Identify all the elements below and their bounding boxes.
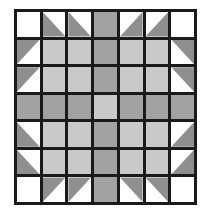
quilt-cell-r1-c5 (120, 12, 143, 37)
quilt-cell-r2-c4 (94, 40, 117, 65)
quilt-cell-r3-c3 (68, 67, 91, 92)
quilt-cell-r2-c6 (146, 40, 169, 65)
quilt-cell-r6-c7 (171, 150, 194, 175)
quilt-cell-r5-c1 (17, 122, 40, 147)
quilt-cell-r7-c3 (68, 177, 91, 202)
quilt-cell-r1-c3 (68, 12, 91, 37)
quilt-cell-r3-c6 (146, 67, 169, 92)
quilt-grid (14, 9, 197, 205)
quilt-cell-r3-c5 (120, 67, 143, 92)
quilt-cell-r6-c3 (68, 150, 91, 175)
quilt-cell-r1-c1 (17, 12, 40, 37)
quilt-cell-r3-c4 (94, 67, 117, 92)
quilt-cell-r2-c7 (171, 40, 194, 65)
quilt-cell-r7-c7 (171, 177, 194, 202)
quilt-cell-r5-c6 (146, 122, 169, 147)
quilt-cell-r4-c7 (171, 95, 194, 120)
quilt-cell-r6-c4 (94, 150, 117, 175)
quilt-cell-r6-c1 (17, 150, 40, 175)
quilt-cell-r5-c5 (120, 122, 143, 147)
quilt-cell-r2-c2 (43, 40, 66, 65)
quilt-cell-r7-c1 (17, 177, 40, 202)
quilt-cell-r5-c3 (68, 122, 91, 147)
quilt-cell-r6-c5 (120, 150, 143, 175)
quilt-cell-r7-c5 (120, 177, 143, 202)
quilt-cell-r5-c7 (171, 122, 194, 147)
quilt-figure (0, 0, 211, 214)
quilt-cell-r2-c5 (120, 40, 143, 65)
quilt-cell-r1-c7 (171, 12, 194, 37)
quilt-cell-r6-c6 (146, 150, 169, 175)
quilt-cell-r1-c2 (43, 12, 66, 37)
quilt-cell-r3-c7 (171, 67, 194, 92)
quilt-cell-r2-c3 (68, 40, 91, 65)
quilt-cell-r7-c2 (43, 177, 66, 202)
quilt-cell-r4-c3 (68, 95, 91, 120)
quilt-cell-r4-c1 (17, 95, 40, 120)
quilt-cell-r5-c2 (43, 122, 66, 147)
quilt-cell-r4-c2 (43, 95, 66, 120)
quilt-cell-r1-c6 (146, 12, 169, 37)
quilt-cell-r1-c4 (94, 12, 117, 37)
quilt-cell-r3-c2 (43, 67, 66, 92)
quilt-cell-r3-c1 (17, 67, 40, 92)
quilt-cell-r4-c4 (94, 95, 117, 120)
quilt-cell-r5-c4 (94, 122, 117, 147)
quilt-cell-r7-c4 (94, 177, 117, 202)
quilt-cell-r2-c1 (17, 40, 40, 65)
quilt-cell-r4-c6 (146, 95, 169, 120)
quilt-cell-r4-c5 (120, 95, 143, 120)
quilt-cell-r6-c2 (43, 150, 66, 175)
quilt-cell-r7-c6 (146, 177, 169, 202)
